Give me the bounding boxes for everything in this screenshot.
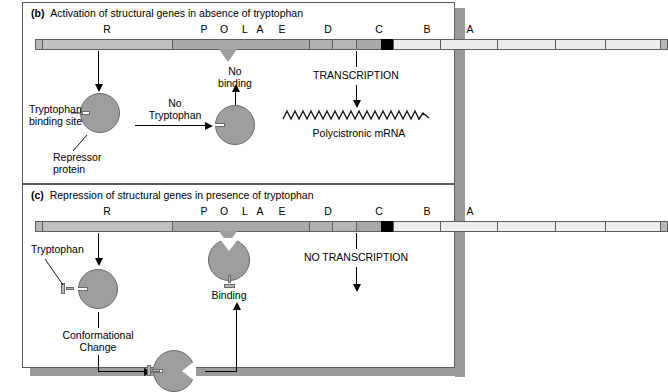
- gene-segment-E: [393, 39, 441, 50]
- no-tryptophan-label: No Tryptophan: [149, 97, 202, 121]
- gene-segment-leader-L-c: [356, 221, 382, 232]
- gene-letter-O: O: [220, 23, 228, 35]
- gene-letter-E-c: E: [278, 205, 285, 217]
- figure-shadow-right: [455, 8, 465, 377]
- operator-binding-notch: [219, 238, 239, 251]
- arrow-conformational-change: [98, 371, 144, 372]
- binding-elbow-horizontal: [205, 371, 237, 372]
- tryptophan-binding-site-notch-2: [215, 123, 225, 127]
- no-transcription-tick: [356, 233, 357, 249]
- gene-segment-D-c: [440, 221, 498, 232]
- gene-letter-L-c: L: [242, 205, 248, 217]
- gene-segment-promoter-P-c: [309, 221, 333, 232]
- transcription-tick: [356, 51, 357, 67]
- gene-letter-D-c: D: [324, 205, 332, 217]
- gene-map-b: [23, 39, 456, 50]
- binding-label: Binding: [211, 289, 246, 301]
- gene-segment-A-c: [605, 221, 661, 232]
- no-transcription-label: NO TRANSCRIPTION: [304, 251, 408, 263]
- gene-letter-P-c: P: [200, 205, 207, 217]
- gene-letter-C-c: C: [375, 205, 383, 217]
- gene-segment-promoter-P: [309, 39, 333, 50]
- gene-segment-E-c: [393, 221, 441, 232]
- gene-segment-B: [555, 39, 606, 50]
- operator-binding-notch-activated: [182, 360, 196, 382]
- gene-segment-spacer-c: [172, 221, 310, 232]
- gene-segment-regulator-R-c: [42, 221, 173, 232]
- panel-b-caption-text: Activation of structural genes in absenc…: [50, 7, 303, 19]
- tryptophan-head-attached: [147, 365, 151, 376]
- conformational-change-tick: [98, 312, 99, 328]
- gene-segment-B-c: [555, 221, 606, 232]
- figure-shadow-bottom: [30, 367, 462, 376]
- tryptophan-molecule-attached: [147, 365, 160, 376]
- arrow-no-tryptophan: [135, 125, 205, 126]
- panel-c-caption-text: Repression of structural genes in presen…: [50, 189, 314, 201]
- gene-letter-P: P: [200, 23, 207, 35]
- gene-letter-R: R: [103, 23, 111, 35]
- tryptophan-stem: [228, 275, 231, 283]
- tryptophan-head: [224, 284, 235, 288]
- tryptophan-molecule-bound: [224, 275, 235, 288]
- tryptophan-label: Tryptophan: [31, 243, 84, 255]
- gene-letter-B-c: B: [423, 205, 430, 217]
- gene-segment-operator-O-c: [332, 221, 357, 232]
- gene-letter-attenuator-c: A: [256, 205, 263, 217]
- gene-segment-C: [497, 39, 556, 50]
- gene-segment-operator-O: [332, 39, 357, 50]
- panel-b-label: (b): [31, 7, 44, 19]
- gene-letter-E: E: [278, 23, 285, 35]
- conformational-change-elbow-vertical: [98, 355, 99, 371]
- arrow-r-to-repressor-c: [98, 233, 99, 259]
- panel-c: (c) Repression of structural genes in pr…: [22, 184, 455, 368]
- gene-bar-cap-right-c: [660, 221, 668, 232]
- panel-c-label: (c): [31, 189, 44, 201]
- conformational-change-label: Conformational Change: [62, 329, 133, 353]
- gene-letter-O-c: O: [220, 205, 228, 217]
- gene-letter-A-c: A: [466, 205, 473, 217]
- tryptophan-binding-site-label: Tryptophan binding site: [29, 103, 82, 127]
- panel-b: (b) Activation of structural genes in ab…: [22, 2, 455, 184]
- tryptophan-stem-attached: [152, 369, 160, 372]
- gene-letter-C: C: [375, 23, 383, 35]
- operator-triangle-b: [219, 49, 237, 62]
- gene-segment-regulator-R: [42, 39, 173, 50]
- gene-map-c: [23, 221, 456, 232]
- arrow-transcription: [356, 85, 357, 101]
- panel-c-caption: (c) Repression of structural genes in pr…: [31, 189, 314, 201]
- gene-letter-A: A: [466, 23, 473, 35]
- gene-letter-R-c: R: [103, 205, 111, 217]
- gene-segment-D: [440, 39, 498, 50]
- gene-segment-spacer: [172, 39, 310, 50]
- gene-segment-C-c: [497, 221, 556, 232]
- gene-bar-cap-right: [660, 39, 668, 50]
- repressor-protein-label: Repressor protein: [53, 151, 101, 175]
- arrow-no-transcription: [356, 267, 357, 285]
- no-binding-label: No binding: [218, 65, 252, 89]
- gene-segment-leader-L: [356, 39, 382, 50]
- arrow-binding-up: [236, 309, 237, 371]
- polycistronic-mrna-label: Polycistronic mRNA: [313, 127, 406, 139]
- polycistronic-mrna-wave: [281, 107, 437, 125]
- gene-letter-attenuator: A: [256, 23, 263, 35]
- gene-letter-D: D: [324, 23, 332, 35]
- repressor-protein-unbound: [215, 105, 255, 145]
- gene-letter-B: B: [423, 23, 430, 35]
- transcription-label: TRANSCRIPTION: [313, 69, 399, 81]
- arrow-no-binding: [235, 91, 236, 105]
- gene-segment-A: [605, 39, 661, 50]
- panel-b-caption: (b) Activation of structural genes in ab…: [31, 7, 303, 19]
- gene-letter-L: L: [242, 23, 248, 35]
